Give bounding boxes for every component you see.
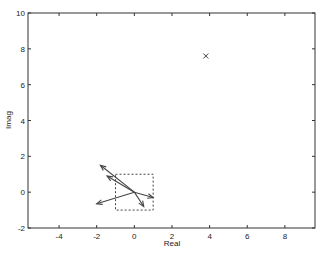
axes-frame: [28, 13, 315, 228]
y-tick-label: 6: [21, 81, 26, 90]
y-tick-label: 8: [21, 45, 26, 54]
x-tick-label: -4: [55, 232, 63, 241]
data-vectors: [97, 165, 153, 206]
vector-arrow: [107, 176, 134, 192]
x-axis-ticks: -4-202468: [55, 13, 287, 241]
y-tick-label: 0: [21, 188, 26, 197]
x-axis-label: Real: [164, 239, 181, 248]
chart: -4-202468 -20246810 Real Imag: [0, 0, 327, 255]
x-tick-label: 4: [207, 232, 212, 241]
y-tick-label: -2: [18, 224, 26, 233]
x-tick-label: -2: [93, 232, 101, 241]
y-axis-ticks: -20246810: [16, 9, 315, 233]
y-tick-label: 4: [21, 117, 26, 126]
vector-arrow: [97, 192, 135, 204]
x-tick-label: 6: [245, 232, 250, 241]
vector-arrow: [100, 165, 134, 192]
x-tick-label: 8: [283, 232, 288, 241]
y-axis-label: Imag: [4, 111, 13, 129]
x-tick-label: 0: [132, 232, 137, 241]
y-tick-label: 2: [21, 152, 26, 161]
plot-area: [28, 13, 315, 228]
y-tick-label: 10: [16, 9, 25, 18]
data-markers: [203, 54, 208, 59]
